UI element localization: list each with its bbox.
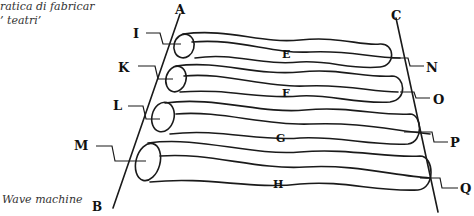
wave-cylinder-2 bbox=[138, 64, 403, 102]
label-k: K bbox=[118, 60, 130, 75]
label-a: A bbox=[174, 2, 186, 17]
label-p: P bbox=[450, 135, 460, 150]
label-l: L bbox=[113, 98, 122, 113]
label-b: B bbox=[92, 200, 102, 214]
label-g: G bbox=[276, 132, 285, 145]
rod-ab bbox=[113, 14, 180, 208]
rod-c bbox=[396, 18, 438, 212]
label-q: Q bbox=[460, 181, 471, 196]
label-h: H bbox=[273, 178, 283, 191]
wave-cylinder-3 bbox=[128, 100, 448, 145]
label-f: F bbox=[282, 87, 290, 100]
label-n: N bbox=[426, 60, 438, 75]
connector-o bbox=[400, 92, 430, 98]
label-o: O bbox=[433, 92, 444, 107]
label-i: I bbox=[133, 26, 139, 41]
wave-machine-diagram: A B C I K L M E F G H N O P Q bbox=[0, 0, 474, 216]
label-c: C bbox=[391, 8, 401, 23]
label-e: E bbox=[282, 48, 290, 61]
wave-cylinder-1 bbox=[146, 32, 400, 68]
connector-n bbox=[392, 58, 424, 66]
figure-caption: Wave machine bbox=[2, 193, 82, 206]
label-m: M bbox=[74, 138, 88, 153]
